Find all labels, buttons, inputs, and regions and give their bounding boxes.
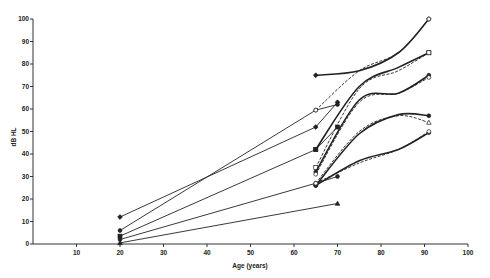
series-line bbox=[316, 19, 429, 110]
triangle-marker bbox=[335, 201, 340, 205]
x-axis-title: Age (years) bbox=[232, 262, 267, 270]
y-tick-label: 0 bbox=[25, 240, 29, 247]
series-line bbox=[316, 53, 429, 168]
y-tick-label: 20 bbox=[22, 195, 30, 202]
x-tick-label: 50 bbox=[247, 249, 255, 256]
x-tick-label: 100 bbox=[463, 249, 474, 256]
series-4 bbox=[118, 201, 340, 244]
circle-marker bbox=[314, 108, 318, 112]
circle-marker bbox=[427, 76, 431, 80]
y-tick-label: 40 bbox=[22, 150, 30, 157]
series-3 bbox=[118, 175, 339, 242]
series-6 bbox=[314, 17, 431, 112]
diamond-marker bbox=[118, 215, 123, 220]
series-5 bbox=[313, 17, 431, 78]
x-tick-label: 70 bbox=[334, 249, 342, 256]
y-axis-title: dB HL bbox=[10, 127, 17, 146]
square-marker bbox=[314, 148, 318, 152]
series-line bbox=[120, 127, 338, 236]
x-tick-label: 90 bbox=[421, 249, 429, 256]
series-2 bbox=[118, 125, 340, 238]
series-line bbox=[316, 19, 429, 75]
series-group bbox=[118, 17, 432, 245]
y-tick-label: 50 bbox=[22, 128, 30, 135]
square-marker bbox=[427, 51, 431, 55]
hearing-threshold-chart: 0102030405060708090100102030405060708090… bbox=[0, 0, 490, 278]
series-line bbox=[120, 177, 338, 240]
x-tick-label: 80 bbox=[377, 249, 385, 256]
y-tick-label: 30 bbox=[22, 173, 30, 180]
series-line bbox=[316, 78, 429, 175]
y-tick-label: 10 bbox=[22, 218, 30, 225]
circle-marker bbox=[314, 172, 318, 176]
series-13 bbox=[314, 131, 431, 188]
series-line bbox=[120, 204, 338, 243]
circle-marker bbox=[118, 229, 122, 233]
circle-marker bbox=[336, 175, 340, 179]
series-line bbox=[120, 105, 338, 231]
y-tick-label: 80 bbox=[22, 60, 30, 67]
circle-marker bbox=[427, 130, 431, 134]
x-tick-label: 30 bbox=[160, 249, 168, 256]
series-1 bbox=[118, 103, 339, 233]
series-line bbox=[316, 116, 429, 184]
circle-marker bbox=[427, 17, 431, 21]
y-tick-label: 100 bbox=[18, 15, 29, 22]
circle-marker bbox=[336, 103, 340, 107]
y-tick-label: 70 bbox=[22, 83, 30, 90]
series-0 bbox=[118, 100, 340, 220]
y-tick-label: 60 bbox=[22, 105, 30, 112]
x-tick-label: 40 bbox=[203, 249, 211, 256]
series-8 bbox=[314, 51, 431, 170]
y-tick-label: 90 bbox=[22, 38, 30, 45]
x-tick-label: 60 bbox=[290, 249, 298, 256]
circle-marker bbox=[314, 181, 318, 185]
x-tick-label: 10 bbox=[73, 249, 81, 256]
diamond-marker bbox=[313, 73, 318, 78]
circle-marker bbox=[427, 114, 431, 118]
series-line bbox=[120, 102, 338, 217]
x-tick-label: 20 bbox=[116, 249, 124, 256]
